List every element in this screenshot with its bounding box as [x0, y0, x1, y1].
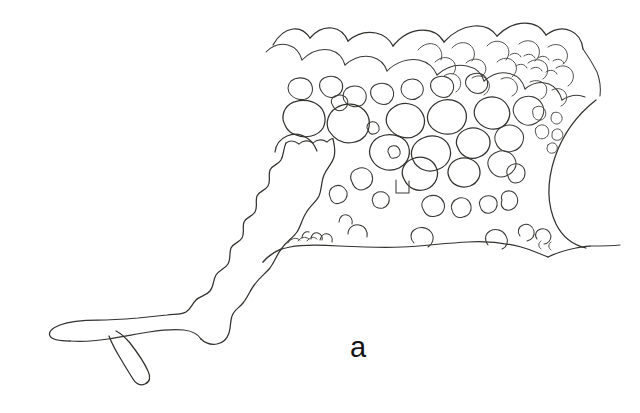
figure-canvas: a	[0, 0, 640, 413]
line-drawing-svg	[0, 0, 640, 413]
panel-label: a	[336, 329, 380, 365]
